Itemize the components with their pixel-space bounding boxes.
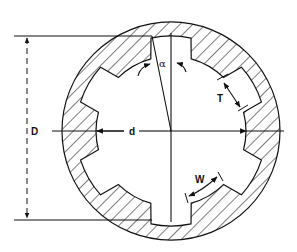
space-extension-right bbox=[218, 172, 223, 181]
angle-arrow-right bbox=[177, 63, 186, 72]
spline-diagram: D d α T W bbox=[0, 0, 297, 252]
angle-reference-line bbox=[152, 36, 171, 131]
label-major-diameter: D bbox=[31, 126, 38, 137]
label-space-width: W bbox=[195, 174, 205, 185]
angle-arrow-left bbox=[138, 64, 150, 76]
label-angle: α bbox=[159, 58, 166, 69]
label-tooth-thickness: T bbox=[217, 93, 223, 104]
tooth-thickness-dim bbox=[224, 83, 240, 107]
space-extension-left bbox=[185, 193, 188, 203]
label-minor-diameter: d bbox=[129, 126, 135, 137]
